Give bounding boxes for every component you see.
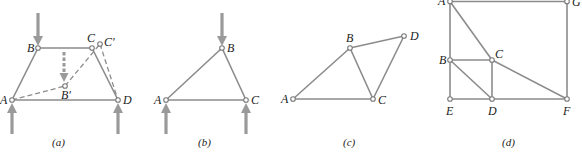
joint-B xyxy=(220,46,225,51)
panel-b: A B C (b) xyxy=(153,13,260,149)
joint-B xyxy=(348,46,353,51)
joint-C xyxy=(490,58,495,63)
member-AB xyxy=(293,48,350,99)
joint-C xyxy=(371,97,376,102)
member-BC xyxy=(350,48,373,99)
label-B: B xyxy=(27,41,35,55)
joint-E xyxy=(448,97,453,102)
label-C: C xyxy=(378,93,387,107)
joint-C-prime xyxy=(98,42,103,47)
label-B: B xyxy=(439,53,447,67)
panel-a: A B C C′ B′ D (a) xyxy=(0,13,132,149)
label-G: G xyxy=(572,0,581,9)
label-D: D xyxy=(409,29,419,43)
label-C-prime: C′ xyxy=(104,35,115,49)
joint-C xyxy=(90,46,95,51)
member-BD xyxy=(450,60,492,99)
caption-b: (b) xyxy=(198,136,211,149)
member-CD xyxy=(373,36,404,99)
joint-D xyxy=(490,97,495,102)
label-C: C xyxy=(251,93,260,107)
joint-G xyxy=(565,0,570,4)
joint-A xyxy=(448,0,453,4)
joint-D xyxy=(402,34,407,39)
truss-diagrams: A B C C′ B′ D (a) A B C (b) xyxy=(0,0,582,154)
reaction-arrow-up-C xyxy=(241,103,251,134)
dashed-member-AB-prime xyxy=(12,86,65,100)
panel-c: A B C D (c) xyxy=(280,29,419,149)
member-AC xyxy=(450,2,492,61)
reaction-arrow-up-D xyxy=(113,103,123,134)
label-A: A xyxy=(437,0,446,8)
joint-A xyxy=(10,98,15,103)
label-B: B xyxy=(227,41,235,55)
label-D: D xyxy=(487,104,497,118)
joint-A xyxy=(164,98,169,103)
caption-a: (a) xyxy=(52,136,65,149)
member-CF xyxy=(492,60,567,99)
reaction-arrow-up-A xyxy=(7,103,17,134)
label-E: E xyxy=(445,104,454,118)
label-C: C xyxy=(495,47,504,61)
joint-C xyxy=(244,98,249,103)
joint-F xyxy=(565,97,570,102)
label-A: A xyxy=(153,93,162,107)
dashed-member-Cprime-D xyxy=(100,44,118,100)
label-F: F xyxy=(562,104,571,118)
joint-B xyxy=(448,58,453,63)
joint-A xyxy=(291,97,296,102)
label-B-prime: B′ xyxy=(61,88,71,102)
member-BC xyxy=(222,48,246,100)
joint-B xyxy=(36,46,41,51)
load-arrow-down-B xyxy=(33,13,43,46)
member-AB xyxy=(166,48,222,100)
label-A: A xyxy=(0,93,8,107)
member-CD xyxy=(92,48,118,100)
caption-c: (c) xyxy=(343,136,356,149)
label-B: B xyxy=(346,31,354,45)
label-A: A xyxy=(280,92,289,106)
displacement-arrow-dashed xyxy=(60,52,69,82)
label-C: C xyxy=(87,31,96,45)
member-BD xyxy=(350,36,404,48)
reaction-arrow-up-A xyxy=(161,103,171,134)
dashed-member-Bprime-Cprime xyxy=(65,44,100,86)
label-D: D xyxy=(122,93,132,107)
caption-d: (d) xyxy=(502,136,515,149)
member-AB xyxy=(12,48,38,100)
joint-D xyxy=(116,98,121,103)
load-arrow-down-B xyxy=(217,13,227,46)
panel-d: A G B C E D F (d) xyxy=(437,0,581,149)
